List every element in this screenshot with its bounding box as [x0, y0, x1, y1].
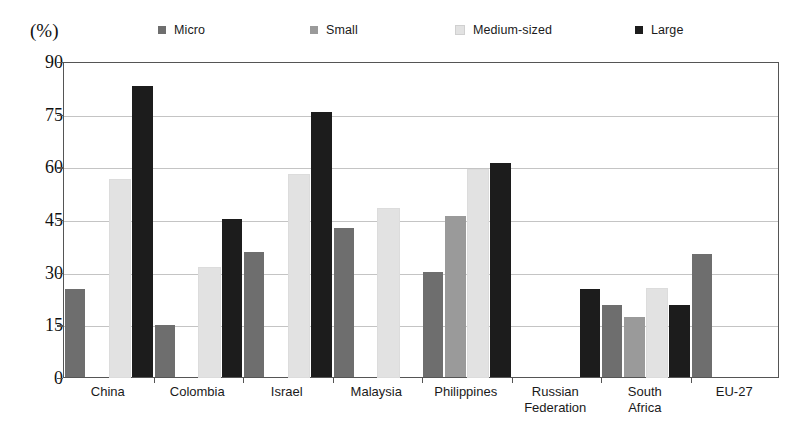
x-axis-separator-tick — [243, 377, 244, 383]
legend-item-medium-sized: Medium-sized — [455, 18, 552, 42]
bar-micro — [692, 254, 712, 377]
bar-large — [132, 86, 152, 377]
bar-micro — [423, 272, 443, 377]
bar-small — [445, 216, 465, 377]
y-axis: 0153045607590 — [0, 0, 63, 440]
x-tick-label: China — [63, 384, 153, 400]
x-axis-labels: ChinaColombiaIsraelMalaysiaPhilippinesRu… — [63, 384, 779, 440]
legend-item-small: Small — [310, 18, 358, 42]
x-axis-separator-tick — [333, 377, 334, 383]
legend-swatch-icon — [455, 25, 465, 35]
bar-group — [691, 63, 781, 377]
bar-group — [601, 63, 691, 377]
legend-label: Large — [651, 23, 683, 37]
legend-item-micro: Micro — [158, 18, 205, 42]
bar-micro — [244, 252, 264, 377]
x-tick-label: Israel — [242, 384, 332, 400]
x-tick-label: South Africa — [600, 384, 690, 416]
bar-group-bars — [243, 63, 333, 377]
x-axis-separator-tick — [422, 377, 423, 383]
legend-item-large: Large — [635, 18, 683, 42]
bar-group-bars — [333, 63, 423, 377]
x-axis-separator-tick — [512, 377, 513, 383]
legend-label: Medium-sized — [473, 23, 552, 37]
bar-group-bars — [601, 63, 691, 377]
bar-micro — [334, 228, 354, 377]
chart-legend: MicroSmallMedium-sizedLarge — [0, 18, 801, 42]
bar-medium-sized — [378, 209, 398, 377]
bar-large — [311, 112, 331, 377]
legend-label: Small — [326, 23, 358, 37]
bar-medium-sized — [199, 268, 219, 377]
bar-group — [512, 63, 602, 377]
legend-label: Micro — [174, 23, 205, 37]
bar-medium-sized — [110, 180, 130, 377]
x-tick-label: Philippines — [421, 384, 511, 400]
bar-large — [222, 219, 242, 377]
bar-medium-sized — [647, 289, 667, 377]
x-tick-label: Malaysia — [332, 384, 422, 400]
bar-medium-sized — [289, 175, 309, 377]
bar-group-bars — [154, 63, 244, 377]
legend-swatch-icon — [310, 26, 318, 34]
bar-group-bars — [64, 63, 154, 377]
bar-micro — [65, 289, 85, 377]
bar-group — [154, 63, 244, 377]
bar-micro — [602, 305, 622, 377]
x-tick-label: EU-27 — [690, 384, 780, 400]
bar-medium-sized — [468, 170, 488, 377]
x-axis-separator-tick — [154, 377, 155, 383]
x-tick-label: Russian Federation — [511, 384, 601, 416]
bar-group — [243, 63, 333, 377]
bar-group-bars — [422, 63, 512, 377]
bar-large — [669, 305, 689, 377]
x-axis-separator-tick — [691, 377, 692, 383]
x-axis-separator-tick — [601, 377, 602, 383]
bar-group — [333, 63, 423, 377]
x-tick-label: Colombia — [153, 384, 243, 400]
bar-small — [624, 317, 644, 377]
legend-swatch-icon — [158, 26, 166, 34]
bar-chart: MicroSmallMedium-sizedLarge (%) 01530456… — [0, 0, 801, 440]
bar-group-bars — [512, 63, 602, 377]
y-tick-mark — [57, 378, 63, 379]
bar-group — [64, 63, 154, 377]
legend-swatch-icon — [635, 26, 643, 34]
plot-area — [63, 62, 779, 378]
bar-large — [490, 163, 510, 377]
bar-group-bars — [691, 63, 781, 377]
bar-large — [580, 289, 600, 377]
bar-micro — [155, 325, 175, 377]
bar-group — [422, 63, 512, 377]
